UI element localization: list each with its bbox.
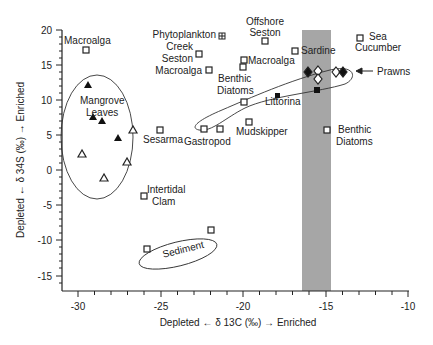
svg-text:-20: -20 bbox=[236, 301, 251, 312]
svg-text:15: 15 bbox=[41, 60, 53, 71]
open-triangle-markers bbox=[78, 126, 137, 181]
svg-text:Macroalga: Macroalga bbox=[155, 65, 202, 76]
svg-text:5: 5 bbox=[46, 130, 52, 141]
svg-text:Sardine: Sardine bbox=[301, 45, 336, 56]
svg-text:-15: -15 bbox=[38, 271, 53, 282]
x-ticks bbox=[78, 291, 408, 297]
svg-text:-25: -25 bbox=[154, 301, 169, 312]
svg-text:Intertidal: Intertidal bbox=[147, 184, 185, 195]
svg-text:Littorina: Littorina bbox=[265, 96, 301, 107]
y-tick-labels: 20 15 10 5 0 -5 -10 -15 bbox=[38, 25, 53, 282]
axes bbox=[62, 30, 409, 291]
mangrove-ellipse bbox=[61, 75, 133, 199]
svg-text:Sesarma: Sesarma bbox=[143, 134, 183, 145]
svg-text:Creek: Creek bbox=[166, 41, 194, 52]
y-ticks bbox=[56, 30, 62, 283]
svg-text:Sea: Sea bbox=[369, 31, 387, 42]
svg-text:Seston: Seston bbox=[249, 27, 280, 38]
svg-text:Macroalga: Macroalga bbox=[64, 35, 111, 46]
phytoplankton-marker bbox=[219, 33, 225, 39]
prawns-arrow-icon bbox=[356, 68, 373, 74]
svg-text:Benthic: Benthic bbox=[218, 73, 251, 84]
svg-text:Clam: Clam bbox=[152, 196, 175, 207]
svg-text:Offshore: Offshore bbox=[246, 16, 285, 27]
svg-text:Cucumber: Cucumber bbox=[355, 42, 402, 53]
svg-text:20: 20 bbox=[41, 25, 53, 36]
svg-text:-5: -5 bbox=[43, 200, 52, 211]
svg-text:Macroalga: Macroalga bbox=[248, 55, 295, 66]
svg-text:-10: -10 bbox=[38, 235, 53, 246]
x-tick-labels: -30 -25 -20 -15 -10 bbox=[71, 301, 416, 312]
svg-text:Leaves: Leaves bbox=[86, 107, 118, 118]
svg-text:-15: -15 bbox=[319, 301, 334, 312]
isotope-scatter-chart: 20 15 10 5 0 -5 -10 -15 -30 -25 -20 -15 … bbox=[0, 0, 433, 345]
x-axis-title: Depleted ← δ 13C (‰) → Enriched bbox=[160, 317, 317, 328]
svg-text:Benthic: Benthic bbox=[338, 124, 371, 135]
svg-text:Mangrove: Mangrove bbox=[80, 95, 125, 106]
svg-text:-10: -10 bbox=[401, 301, 416, 312]
svg-text:Phytoplankton: Phytoplankton bbox=[153, 29, 216, 40]
svg-text:10: 10 bbox=[41, 95, 53, 106]
svg-text:Diatoms: Diatoms bbox=[217, 85, 254, 96]
svg-text:-30: -30 bbox=[71, 301, 86, 312]
svg-text:Prawns: Prawns bbox=[377, 66, 410, 77]
svg-text:Sediment: Sediment bbox=[161, 239, 205, 260]
svg-text:Gastropod: Gastropod bbox=[184, 136, 231, 147]
svg-text:Mudskipper: Mudskipper bbox=[236, 126, 288, 137]
svg-text:Diatoms: Diatoms bbox=[336, 136, 373, 147]
svg-text:Seston: Seston bbox=[162, 53, 193, 64]
y-axis-title: Depleted ← δ 34S (‰) → Enriched bbox=[15, 82, 26, 238]
svg-text:0: 0 bbox=[46, 165, 52, 176]
